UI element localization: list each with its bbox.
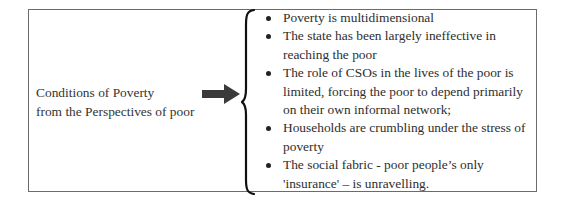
list-item-text: Households are crumbling under the stres…: [283, 120, 525, 153]
list-item-text: Poverty is multidimensional: [283, 10, 434, 25]
concept-label-line-1: Conditions of Poverty: [36, 83, 194, 102]
bullet-icon: [266, 34, 271, 39]
list-item-text: The social fabric - poor people’s only '…: [283, 157, 484, 190]
list-item-text: The state has been largely ineffective i…: [283, 28, 496, 61]
right-arrow-icon: [202, 84, 240, 104]
conditions-list: Poverty is multidimensional The state ha…: [262, 9, 536, 193]
list-item-text: The role of CSOs in the lives of the poo…: [283, 65, 523, 117]
left-curly-brace-icon: [241, 9, 255, 195]
bullet-icon: [266, 71, 271, 76]
concept-label-line-2: from the Perspectives of poor: [36, 102, 194, 121]
bullet-icon: [266, 163, 271, 168]
bullet-icon: [266, 126, 271, 131]
concept-label: Conditions of Poverty from the Perspecti…: [36, 83, 194, 121]
list-item: The state has been largely ineffective i…: [262, 27, 536, 64]
list-item: The role of CSOs in the lives of the poo…: [262, 64, 536, 119]
list-item: Households are crumbling under the stres…: [262, 119, 536, 156]
list-item: Poverty is multidimensional: [262, 9, 536, 27]
bullet-icon: [266, 16, 271, 21]
list-item: The social fabric - poor people’s only '…: [262, 156, 536, 193]
